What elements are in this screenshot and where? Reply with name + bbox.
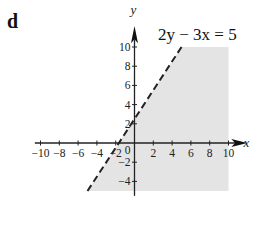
x-axis-label: x (243, 135, 250, 150)
x-tick-label: −4 (91, 147, 103, 159)
y-tick-label: 4 (125, 99, 131, 111)
x-tick-label: −8 (53, 147, 65, 159)
y-axis-label: y (129, 2, 137, 17)
equation-label: 2y − 3x = 5 (158, 25, 237, 44)
inequality-graph: −10−8−6−4−20246810−4−2246810xy2y − 3x = … (0, 0, 265, 228)
x-tick-label: 0 (125, 144, 131, 156)
x-tick-label: 8 (207, 147, 213, 159)
x-tick-label: 6 (188, 147, 194, 159)
y-tick-label: 8 (125, 60, 131, 72)
shaded-region (88, 47, 229, 191)
y-tick-label: 10 (119, 41, 131, 53)
y-tick-label: 6 (125, 79, 131, 91)
shaded-polygon (88, 47, 229, 191)
y-tick-label: 2 (125, 118, 131, 130)
x-tick-label: −10 (32, 147, 50, 159)
y-tick-label: −2 (118, 156, 130, 168)
x-tick-label: 2 (150, 147, 156, 159)
y-tick-label: −4 (118, 175, 130, 187)
x-tick-label: 4 (169, 147, 175, 159)
x-tick-label: 10 (223, 147, 235, 159)
x-tick-label: −6 (72, 147, 84, 159)
